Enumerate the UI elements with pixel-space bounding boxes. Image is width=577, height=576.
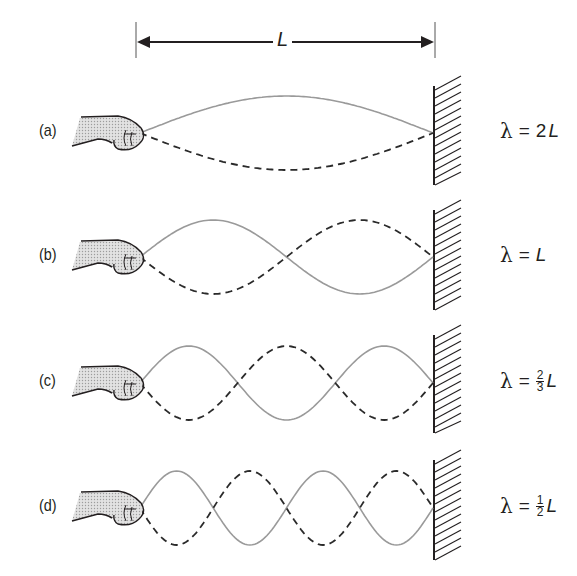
equals-sign: = [519,120,530,142]
wave-dashed [140,346,433,420]
case-label: (a) [39,121,57,141]
hand-icon [72,366,144,400]
arrowhead-left-icon [137,36,150,48]
case-a [72,76,461,185]
equals-sign: = [519,495,530,517]
case-d [72,450,461,560]
length-variable: L [546,495,557,517]
length-label: L [273,28,292,51]
fraction-denominator: 2 [537,507,544,518]
fixed-wall-icon [434,200,461,310]
case-c [72,325,461,433]
wavelength-formula: λ=2L [500,119,559,143]
wavelength-formula: λ=L [500,243,546,267]
hand-icon [72,240,144,274]
case-b [72,200,461,310]
wave-solid [140,471,433,545]
fixed-wall-icon [434,450,461,560]
wave-solid [140,346,433,420]
lambda-symbol: λ [500,243,513,267]
case-label: (c) [39,371,56,391]
arrowhead-right-icon [421,36,434,48]
wavelength-formula: λ=12L [500,494,557,518]
hand-icon [72,116,144,150]
case-label: (b) [39,245,57,265]
wave-solid [140,96,433,133]
wave-dashed [140,133,433,170]
equals-sign: = [519,244,530,266]
length-variable: L [548,120,559,142]
wave-solid [140,220,433,294]
coefficient: 2 [536,120,547,142]
length-variable: L [546,370,557,392]
hand-icon [72,491,144,525]
fraction: 23 [536,370,545,393]
fraction: 12 [536,495,545,518]
cases-layer [72,76,461,560]
fixed-wall-icon [434,325,461,433]
wavelength-formula: λ=23L [500,369,557,393]
fraction-denominator: 3 [537,382,544,393]
lambda-symbol: λ [500,494,513,518]
case-label: (d) [39,496,57,516]
length-variable: L [536,244,547,266]
equals-sign: = [519,370,530,392]
standing-waves-diagram [0,0,577,576]
fixed-wall-icon [434,76,461,185]
lambda-symbol: λ [500,369,513,393]
lambda-symbol: λ [500,119,513,143]
